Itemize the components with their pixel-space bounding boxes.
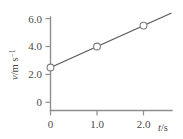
y-axis-exponent: −1 [8,49,17,57]
x-axis-title: t/s [158,122,168,133]
svg-text:t/s: t/s [158,122,168,133]
x-tick-label-2: 2.0 [137,118,151,130]
y-tick-label-4: 4.0 [28,40,42,52]
data-point-1 [94,43,101,50]
velocity-time-plot: 6.0 4.0 2.0 0 0 1.0 2.0 v/m s−1 t/s [0,0,183,139]
axes-group [51,17,173,111]
y-tick-labels: 6.0 4.0 2.0 0 [28,13,42,109]
fit-line [51,13,172,68]
data-point-2 [140,22,147,29]
data-line-group [51,13,172,68]
y-tick-marks [46,19,51,103]
y-axis-title: v/m s−1 [8,49,21,80]
y-axis-unit: /m s [9,58,20,76]
data-point-0 [47,64,54,71]
x-axis-unit: /s [161,122,168,133]
y-tick-label-0: 0 [37,96,43,108]
x-tick-label-0: 0 [48,118,54,130]
y-tick-label-6: 6.0 [28,13,42,25]
x-tick-labels: 0 1.0 2.0 [48,118,151,130]
svg-text:v/m s−1: v/m s−1 [8,49,21,80]
y-tick-label-2: 2.0 [28,68,42,80]
x-tick-label-1: 1.0 [90,118,104,130]
data-markers-group [47,22,147,71]
x-tick-marks [51,111,144,116]
chart-figure: 6.0 4.0 2.0 0 0 1.0 2.0 v/m s−1 t/s [0,0,183,139]
